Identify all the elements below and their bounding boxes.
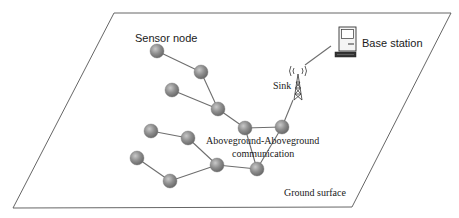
communication-label-line1: Aboveground-Aboveground <box>206 135 319 146</box>
sensor-node <box>194 65 208 79</box>
sensor-network-diagram: Sensor node Base station Sink Abovegroun… <box>0 0 459 218</box>
edge <box>157 51 201 72</box>
sensor-node <box>210 158 224 172</box>
sensor-node <box>150 44 164 58</box>
sink-tower-icon <box>290 66 307 100</box>
sensor-node <box>130 151 144 165</box>
sensor-node-label: Sensor node <box>135 32 197 44</box>
sensor-node <box>165 83 179 97</box>
communication-label-line2: communication <box>232 148 294 159</box>
sensor-node <box>275 120 289 134</box>
base-station-label: Base station <box>362 37 423 49</box>
sensor-node <box>144 124 158 138</box>
sink-to-base-link <box>305 46 331 65</box>
sink-label: Sink <box>273 80 291 91</box>
sensor-node <box>238 121 252 135</box>
sensor-node <box>211 102 225 116</box>
sensor-node <box>250 162 264 176</box>
base-station-computer-icon <box>335 27 356 57</box>
sensor-nodes <box>130 44 289 188</box>
edge <box>170 165 217 181</box>
ground-surface-label: Ground surface <box>284 187 346 198</box>
sensor-node <box>163 174 177 188</box>
sensor-node <box>181 131 195 145</box>
